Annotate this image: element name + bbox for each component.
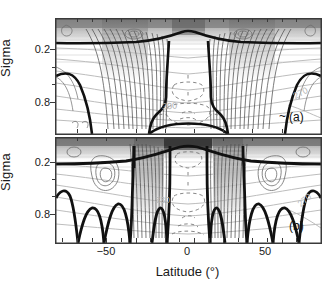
- panel-a-y-axis-label: Sigma: [0, 0, 13, 118]
- panel-a-ytick-0-8: 0.8: [20, 96, 50, 108]
- panel-b-ytick-minor-0-6: [52, 196, 55, 197]
- xtick-label-50: 50: [245, 245, 285, 257]
- panel-b-y-axis-label: Sigma: [0, 112, 13, 232]
- panel-a-ytick-minor-0-6: [52, 84, 55, 85]
- panel-a-tag-tilde: ~: [279, 109, 286, 123]
- panel-b-ytick-0-8: 0.8: [20, 208, 50, 220]
- panel-b-contour-svg: [56, 138, 321, 243]
- panel-b-plot-area: [55, 137, 322, 244]
- x-axis-label: Latitude (°): [55, 264, 320, 279]
- panel-a-ytick-mark-0-8: [50, 102, 55, 103]
- panel-a-ytick-mark-0-2: [50, 49, 55, 50]
- panel-a-tag: (a): [289, 110, 304, 124]
- panel-a-ytick-minor-0-4: [52, 67, 55, 68]
- panel-b-ytick-mark-0-8: [50, 214, 55, 215]
- figure-root: 300 270 330 270 ~ (a) (b) Sigma 0.2 0.8 …: [0, 0, 336, 289]
- panel-a-theta-label-300: 300: [162, 101, 178, 112]
- xtick-label-0: 0: [167, 245, 207, 257]
- panel-a-ytick-0-2: 0.2: [20, 43, 50, 55]
- panel-b-ytick-0-2: 0.2: [20, 156, 50, 168]
- panel-b-ytick-minor-0-4: [52, 179, 55, 180]
- xtick-label-neg50: −50: [86, 245, 126, 257]
- panel-b-theta-label-330: 330: [155, 195, 170, 205]
- panel-b-tag: (b): [289, 219, 304, 233]
- panel-b-ytick-mark-0-2: [50, 162, 55, 163]
